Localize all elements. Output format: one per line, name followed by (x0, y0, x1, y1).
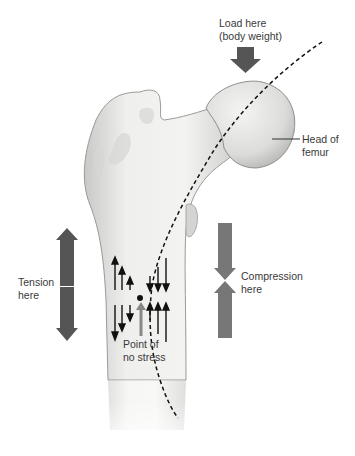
load-label: Load here (body weight) (219, 17, 282, 42)
double-headed-arrow-icon (56, 228, 78, 341)
compression-label: Compression here (241, 270, 303, 295)
head-label-line2: femur (302, 146, 339, 159)
compression-label-line1: Compression (241, 270, 303, 283)
head-of-femur-label: Head of femur (302, 133, 339, 158)
neutral-point (137, 295, 143, 301)
tension-label: Tension here (18, 276, 54, 301)
no-stress-label: Point of no stress (123, 338, 166, 363)
head-label-line1: Head of (302, 133, 339, 146)
down-arrow-icon (230, 47, 261, 73)
no-stress-label-line1: Point of (123, 338, 166, 351)
tension-label-line2: here (18, 289, 54, 302)
converging-arrows-icon (214, 223, 236, 338)
compression-label-line2: here (241, 283, 303, 296)
no-stress-label-line2: no stress (123, 351, 166, 364)
femur-diagram (0, 0, 355, 456)
tension-label-line1: Tension (18, 276, 54, 289)
femur-bone (84, 81, 294, 456)
load-label-line1: Load here (219, 17, 282, 30)
load-label-line2: (body weight) (219, 30, 282, 43)
